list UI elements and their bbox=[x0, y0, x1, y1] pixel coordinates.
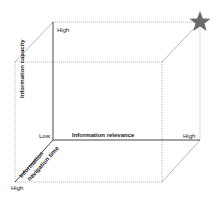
capacity-high-label: High bbox=[57, 27, 69, 33]
navigation-high-label: High bbox=[11, 185, 23, 191]
edge-bottom-right-diag bbox=[162, 140, 200, 182]
relevance-high-label: High bbox=[183, 133, 195, 139]
capacity-low-label: Low bbox=[39, 133, 50, 139]
capacity-axis-label: Information capacity bbox=[19, 39, 25, 98]
relevance-axis-label: Information relevance bbox=[72, 132, 134, 138]
